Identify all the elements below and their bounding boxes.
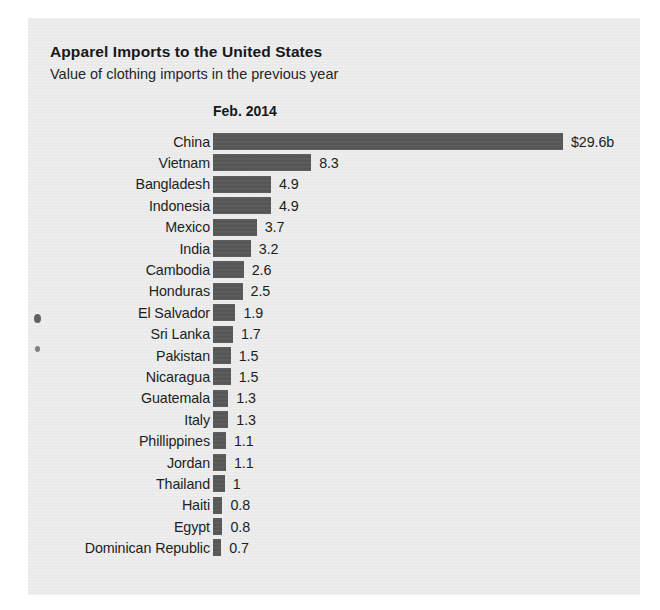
bar-value-label: 1.5 xyxy=(239,369,259,385)
chart-subtitle: Value of clothing imports in the previou… xyxy=(50,66,338,82)
bar xyxy=(213,411,228,428)
scan-artifact-speck xyxy=(35,346,40,352)
bar xyxy=(213,475,225,492)
bar-value-label: 0.8 xyxy=(230,497,250,513)
bar xyxy=(213,133,563,150)
bar-track: 0.8 xyxy=(213,516,640,537)
bar-category-label: El Salvador xyxy=(138,305,210,321)
bar-value-label: 4.9 xyxy=(279,198,299,214)
bar-category-label: China xyxy=(173,134,210,150)
bar-value-label: 3.7 xyxy=(265,219,285,235)
bar-track: 3.2 xyxy=(213,238,640,259)
bar-track: 4.9 xyxy=(213,174,640,195)
bar-track: 1.9 xyxy=(213,302,640,323)
bar-row: Vietnam8.3 xyxy=(28,152,640,173)
bar xyxy=(213,454,226,471)
bar-row: Sri Lanka1.7 xyxy=(28,324,640,345)
bar-row: Nicaragua1.5 xyxy=(28,366,640,387)
bar-row: Pakistan1.5 xyxy=(28,345,640,366)
bar xyxy=(213,497,222,514)
bar-value-label: 0.8 xyxy=(230,519,250,535)
column-header-date: Feb. 2014 xyxy=(213,103,277,119)
bar-value-label: 8.3 xyxy=(319,155,339,171)
bar-value-label: 1.5 xyxy=(239,348,259,364)
bar-value-label: $29.6b xyxy=(571,134,614,150)
bar-row: Cambodia2.6 xyxy=(28,259,640,280)
bar-value-label: 4.9 xyxy=(279,176,299,192)
bar xyxy=(213,261,244,278)
bar-row: Thailand1 xyxy=(28,473,640,494)
bar-track: 1.5 xyxy=(213,366,640,387)
bar-track: 2.6 xyxy=(213,259,640,280)
bar-value-label: 3.2 xyxy=(259,241,279,257)
chart-title: Apparel Imports to the United States xyxy=(50,43,322,61)
scan-artifact-speck xyxy=(34,314,41,323)
bar xyxy=(213,347,231,364)
bar xyxy=(213,154,311,171)
bar-track: 4.9 xyxy=(213,195,640,216)
bar xyxy=(213,326,233,343)
bar xyxy=(213,197,271,214)
bar-category-label: Italy xyxy=(184,412,210,428)
bar-row: China$29.6b xyxy=(28,131,640,152)
bar-category-label: India xyxy=(179,241,210,257)
chart-panel: Apparel Imports to the United States Val… xyxy=(28,18,640,595)
bar-row: Mexico3.7 xyxy=(28,217,640,238)
bar-row: Haiti0.8 xyxy=(28,495,640,516)
bar-track: 1.3 xyxy=(213,388,640,409)
bar xyxy=(213,390,228,407)
bar-track: 3.7 xyxy=(213,217,640,238)
bar-category-label: Nicaragua xyxy=(146,369,210,385)
bar-category-label: Guatemala xyxy=(141,390,210,406)
bar-row: Jordan1.1 xyxy=(28,452,640,473)
bar-category-label: Indonesia xyxy=(149,198,210,214)
bar-track: 0.8 xyxy=(213,495,640,516)
bar-row: Indonesia4.9 xyxy=(28,195,640,216)
bar-category-label: Bangladesh xyxy=(135,176,210,192)
bar-value-label: 1.1 xyxy=(234,455,254,471)
bar-category-label: Haiti xyxy=(182,497,210,513)
bar-category-label: Cambodia xyxy=(146,262,210,278)
bar xyxy=(213,304,235,321)
bar xyxy=(213,219,257,236)
bar xyxy=(213,176,271,193)
bar-value-label: 1.3 xyxy=(236,390,256,406)
bar-category-label: Phillippines xyxy=(139,433,210,449)
bar-category-label: Jordan xyxy=(167,455,210,471)
bar-category-label: Honduras xyxy=(149,283,210,299)
bar-track: 8.3 xyxy=(213,152,640,173)
bar-value-label: 1 xyxy=(233,476,241,492)
bar-category-label: Thailand xyxy=(156,476,210,492)
bar-category-label: Egypt xyxy=(174,519,210,535)
bar-category-label: Dominican Republic xyxy=(85,540,210,556)
bar-category-label: Pakistan xyxy=(156,348,210,364)
bar-category-label: Mexico xyxy=(165,219,210,235)
bar-track: 2.5 xyxy=(213,281,640,302)
bar-row: Egypt0.8 xyxy=(28,516,640,537)
bar-row: Honduras2.5 xyxy=(28,281,640,302)
bar xyxy=(213,283,243,300)
bar-track: 1.5 xyxy=(213,345,640,366)
bar-track: $29.6b xyxy=(213,131,640,152)
bar-value-label: 0.7 xyxy=(229,540,249,556)
bar-value-label: 2.6 xyxy=(252,262,272,278)
bar-row: Bangladesh4.9 xyxy=(28,174,640,195)
bar-category-label: Vietnam xyxy=(159,155,211,171)
bar-category-label: Sri Lanka xyxy=(151,326,211,342)
bar-track: 1.1 xyxy=(213,430,640,451)
bar-chart-plot-area: China$29.6bVietnam8.3Bangladesh4.9Indone… xyxy=(28,131,640,559)
bar xyxy=(213,539,221,556)
bar-row: Italy1.3 xyxy=(28,409,640,430)
bar xyxy=(213,518,222,535)
bar xyxy=(213,240,251,257)
bar-value-label: 2.5 xyxy=(251,283,271,299)
bar-track: 0.7 xyxy=(213,537,640,558)
bar xyxy=(213,432,226,449)
bar-value-label: 1.3 xyxy=(236,412,256,428)
bar-row: El Salvador1.9 xyxy=(28,302,640,323)
bar-row: India3.2 xyxy=(28,238,640,259)
bar-track: 1.3 xyxy=(213,409,640,430)
bar-value-label: 1.9 xyxy=(243,305,263,321)
bar-value-label: 1.1 xyxy=(234,433,254,449)
bar-row: Guatemala1.3 xyxy=(28,388,640,409)
